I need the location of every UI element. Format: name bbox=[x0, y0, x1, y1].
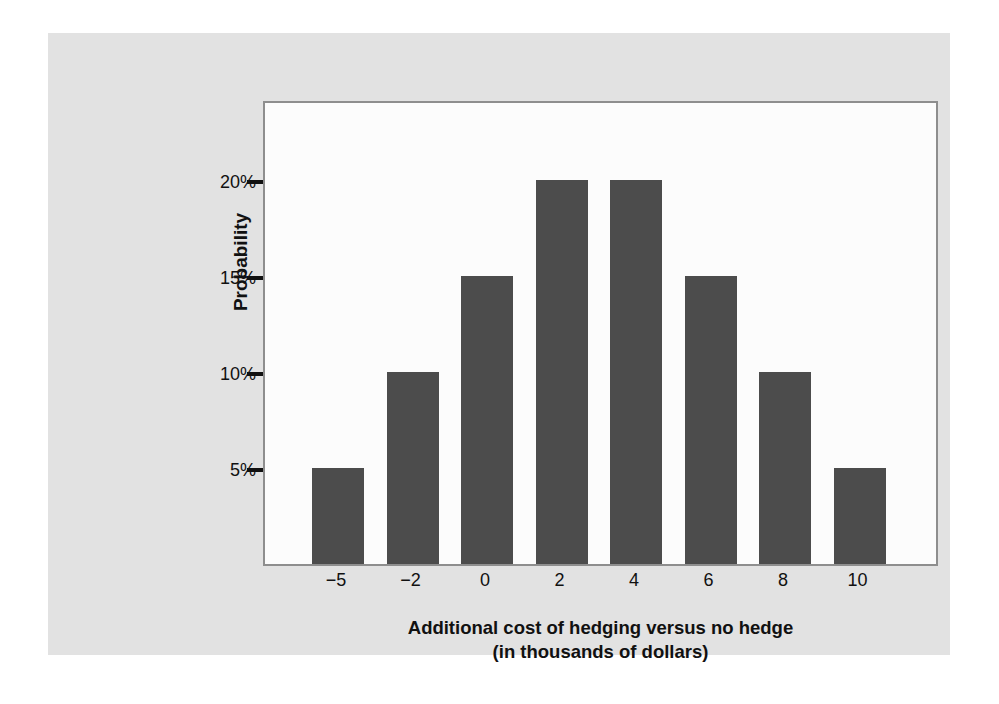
y-axis-tick-mark bbox=[247, 276, 263, 280]
bar bbox=[461, 276, 513, 564]
x-axis-tick-label: 2 bbox=[530, 570, 590, 592]
y-axis-tick-label: 10% bbox=[188, 365, 256, 383]
x-axis-tick-label: 4 bbox=[604, 570, 664, 592]
x-axis-tick-label: 0 bbox=[455, 570, 515, 592]
plot-frame bbox=[263, 101, 938, 566]
figure-root: Probability 5%10%15%20% −5−20246810 Addi… bbox=[0, 0, 999, 704]
y-axis-tick-label: 15% bbox=[188, 269, 256, 287]
bar bbox=[685, 276, 737, 564]
y-axis-tick-mark bbox=[247, 468, 263, 472]
x-axis-tick-label: 8 bbox=[753, 570, 813, 592]
x-axis-tick-labels: −5−20246810 bbox=[263, 570, 938, 596]
y-axis-tick-labels: 5%10%15%20% bbox=[188, 101, 256, 566]
bar bbox=[312, 468, 364, 564]
x-axis-caption-line-1: Additional cost of hedging versus no hed… bbox=[263, 616, 938, 640]
y-axis-tick-marks bbox=[247, 101, 263, 566]
bar bbox=[610, 180, 662, 564]
x-axis-tick-label: −5 bbox=[306, 570, 366, 592]
plot-area bbox=[265, 103, 936, 564]
y-axis-tick-label: 5% bbox=[188, 461, 256, 479]
bar bbox=[759, 372, 811, 564]
bar bbox=[834, 468, 886, 564]
x-axis-caption-line-2: (in thousands of dollars) bbox=[263, 640, 938, 664]
bar bbox=[387, 372, 439, 564]
y-axis-tick-mark bbox=[247, 180, 263, 184]
bar bbox=[536, 180, 588, 564]
x-axis-caption: Additional cost of hedging versus no hed… bbox=[263, 616, 938, 663]
x-axis-tick-label: 10 bbox=[828, 570, 888, 592]
y-axis-tick-label: 20% bbox=[188, 173, 256, 191]
y-axis-tick-mark bbox=[247, 372, 263, 376]
x-axis-tick-label: 6 bbox=[679, 570, 739, 592]
figure-panel: Probability 5%10%15%20% −5−20246810 Addi… bbox=[48, 33, 950, 655]
x-axis-tick-label: −2 bbox=[381, 570, 441, 592]
